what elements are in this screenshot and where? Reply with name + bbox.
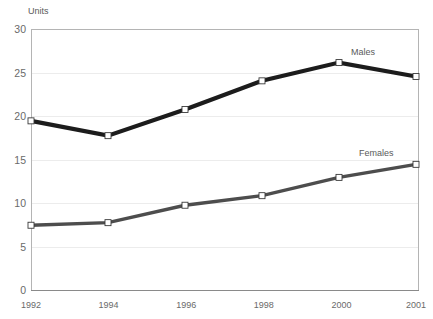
y-tick-label: 0 [20,284,26,296]
x-tick-label: 1996 [176,300,196,310]
y-tick-label: 5 [20,241,26,253]
chart-canvas: Units 30 25 20 15 10 5 0 [0,0,433,319]
y-tick-label: 20 [14,110,26,122]
y-axis-title: Units [28,6,49,16]
x-tick-label: 2000 [331,300,351,310]
data-point-marker[interactable] [28,118,34,124]
y-tick-label: 30 [14,23,26,35]
data-point-marker[interactable] [336,174,342,180]
line-chart: Units 30 25 20 15 10 5 0 [0,0,433,319]
y-tick-label: 10 [14,197,26,209]
x-tick-label: 1992 [21,300,41,310]
y-tick-label: 25 [14,67,26,79]
data-series-layer [28,60,419,229]
gridlines [31,30,419,248]
data-point-marker[interactable] [28,222,34,228]
data-point-marker[interactable] [105,220,111,226]
data-point-marker[interactable] [413,161,419,167]
y-tick-label: 15 [14,154,26,166]
data-point-marker[interactable] [259,193,265,199]
data-point-marker[interactable] [413,73,419,79]
data-point-marker[interactable] [259,78,265,84]
series-line-females [31,164,416,225]
y-axis-tick-labels: 30 25 20 15 10 5 0 [14,23,26,296]
x-axis-tick-labels: 1992 1994 1996 1998 2000 2001 [21,300,426,310]
series-label-females: Females [359,148,394,158]
x-tick-label: 1994 [99,300,119,310]
x-tick-label: 1998 [254,300,274,310]
data-point-marker[interactable] [336,60,342,66]
series-line-males [31,63,416,136]
data-point-marker[interactable] [182,202,188,208]
series-label-males: Males [351,47,376,57]
data-point-marker[interactable] [105,133,111,139]
x-tick-label: 2001 [406,300,426,310]
data-point-marker[interactable] [182,107,188,113]
